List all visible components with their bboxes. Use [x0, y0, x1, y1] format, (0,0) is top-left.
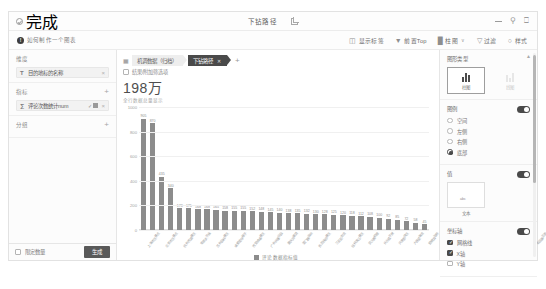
bar-column[interactable]: 132	[302, 107, 311, 230]
style-button[interactable]: ○ 样式	[508, 36, 527, 45]
bar[interactable]	[331, 215, 336, 230]
legend-toggle[interactable]	[517, 106, 530, 113]
value-toggle[interactable]	[517, 171, 530, 178]
axis-toggle[interactable]	[517, 228, 530, 235]
add-group-icon[interactable]: +	[104, 121, 109, 129]
add-measure-icon[interactable]: +	[104, 88, 109, 96]
result-filter-checkbox[interactable]	[123, 69, 129, 75]
bar-column[interactable]: 125	[329, 107, 338, 230]
add-breadcrumb-icon[interactable]: +	[235, 57, 240, 65]
bar[interactable]	[222, 211, 227, 230]
sort-badge[interactable]: ✓	[88, 103, 99, 109]
bar-column[interactable]: 870	[148, 107, 157, 230]
bar[interactable]	[386, 219, 391, 230]
bar-column[interactable]: 130	[311, 107, 320, 230]
chart-type-bar[interactable]: 柱图	[447, 67, 485, 94]
bar-column[interactable]: 340	[166, 107, 175, 230]
bar-column[interactable]: 118	[347, 107, 356, 230]
legend-option-bottom[interactable]: 底部	[447, 149, 530, 156]
bar-column[interactable]: 165	[212, 107, 221, 230]
bar-column[interactable]: 905	[139, 107, 148, 230]
legend-option-left[interactable]: 左侧	[447, 128, 530, 135]
bar[interactable]	[349, 216, 354, 231]
bar-column[interactable]: 92	[384, 107, 393, 230]
bar-column[interactable]: 138	[284, 107, 293, 230]
bar-column[interactable]: 120	[338, 107, 347, 230]
filter-button[interactable]: ▽ 过滤	[477, 36, 497, 45]
bar[interactable]	[413, 223, 418, 230]
toolbar-hint[interactable]: ! 如何制作一个图表	[9, 36, 77, 44]
bar-column[interactable]: 135	[293, 107, 302, 230]
remove-field-icon[interactable]: ×	[101, 103, 105, 109]
bar-column[interactable]: 100	[375, 107, 384, 230]
bar[interactable]	[186, 208, 191, 230]
bar[interactable]	[259, 212, 264, 230]
edit-square-icon[interactable]	[291, 18, 298, 25]
bar-column[interactable]: 175	[184, 107, 193, 230]
bar-column[interactable]: 145	[266, 107, 275, 230]
bar-column[interactable]: 435	[157, 107, 166, 230]
show-labels-button[interactable]: ◫ 显示标签	[349, 36, 384, 45]
limit-rows-checkbox[interactable]	[15, 249, 21, 255]
axis-option-grid[interactable]: 网格线	[447, 239, 530, 246]
bar[interactable]	[268, 212, 273, 230]
bar-column[interactable]: 128	[320, 107, 329, 230]
bar-column[interactable]: 45	[420, 107, 429, 230]
bar-column[interactable]: 152	[248, 107, 257, 230]
bar[interactable]	[358, 216, 363, 230]
bar-column[interactable]: 72	[402, 107, 411, 230]
bar[interactable]	[377, 218, 382, 230]
bar[interactable]	[250, 211, 255, 230]
bar-column[interactable]: 178	[175, 107, 184, 230]
remove-field-icon[interactable]: ×	[101, 70, 105, 76]
axis-option-y[interactable]: Y轴	[447, 260, 530, 267]
breadcrumb-item-source[interactable]: 机调数据（归档）	[132, 55, 183, 66]
bar[interactable]	[204, 209, 209, 230]
bar[interactable]	[141, 119, 146, 230]
bar[interactable]	[241, 211, 246, 230]
bar[interactable]	[304, 214, 309, 230]
legend-option-right[interactable]: 右侧	[447, 138, 530, 145]
bar-column[interactable]: 85	[393, 107, 402, 230]
bar[interactable]	[195, 209, 200, 230]
bar[interactable]	[150, 123, 155, 230]
bar[interactable]	[367, 217, 372, 230]
breadcrumb-item-drilldown[interactable]: 下钻路径 ✕	[188, 55, 228, 66]
bar-column[interactable]: 58	[411, 107, 420, 230]
legend-option-top[interactable]: 空间	[447, 117, 530, 124]
bar[interactable]	[213, 210, 218, 230]
top-n-button[interactable]: ▼ 前置Top	[395, 36, 427, 45]
bar[interactable]	[177, 208, 182, 230]
bar[interactable]	[286, 213, 291, 230]
bar-column[interactable]: 148	[257, 107, 266, 230]
bar[interactable]	[277, 213, 282, 230]
bar-column[interactable]: 155	[230, 107, 239, 230]
chart-type-line[interactable]: 线图	[491, 67, 529, 94]
right-panel-scrollbar[interactable]	[533, 53, 536, 257]
dimension-field-chip[interactable]: T 目的地标的名称 ×	[16, 67, 109, 78]
bar-column[interactable]: 140	[275, 107, 284, 230]
bar-column[interactable]: 112	[357, 107, 366, 230]
generate-button[interactable]: 生成	[84, 246, 110, 258]
bar[interactable]	[322, 214, 327, 230]
collapse-caret-icon[interactable]: ▲	[526, 53, 531, 59]
bar[interactable]	[404, 221, 409, 230]
bar[interactable]	[395, 220, 400, 230]
bar-column[interactable]: 108	[366, 107, 375, 230]
bar[interactable]	[313, 214, 318, 230]
bar-column[interactable]: 155	[239, 107, 248, 230]
bar[interactable]	[168, 188, 173, 230]
bar-column[interactable]: 168	[202, 107, 211, 230]
value-style-text[interactable]: abc	[447, 182, 485, 208]
scrollbar-thumb[interactable]	[533, 55, 536, 183]
bar[interactable]	[295, 213, 300, 230]
chart-type-button[interactable]: █ 柱图 ∨	[438, 36, 466, 45]
bar[interactable]	[232, 211, 237, 230]
bar-column[interactable]: 158	[221, 107, 230, 230]
measure-field-chip[interactable]: ∑ 评论次数统计num ✓ ×	[16, 100, 109, 111]
axis-option-x[interactable]: X轴	[447, 250, 530, 257]
bar[interactable]	[340, 215, 345, 230]
bar[interactable]	[159, 177, 164, 231]
bar-column[interactable]: 168	[193, 107, 202, 230]
close-icon[interactable]: ✕	[217, 58, 221, 64]
